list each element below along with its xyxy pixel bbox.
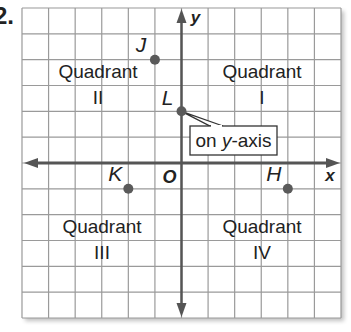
quadrant-word: Quadrant <box>58 61 138 82</box>
origin-label: O <box>162 167 176 187</box>
quadrant-numeral: II <box>93 87 104 108</box>
point-label-k: K <box>108 162 123 185</box>
quadrant-word: Quadrant <box>62 216 142 237</box>
point-j <box>150 55 160 65</box>
quadrant-word: Quadrant <box>222 61 302 82</box>
point-l <box>177 106 187 116</box>
point-label-j: J <box>135 33 147 56</box>
quadrant-numeral: I <box>259 87 264 108</box>
coordinate-plane: QuadrantIQuadrantIIQuadrantIIIQuadrantIV… <box>0 0 351 332</box>
point-label-l: L <box>162 86 174 109</box>
callout-text: on y-axis <box>195 130 271 151</box>
quadrant-word: Quadrant <box>222 216 302 237</box>
quadrant-numeral: IV <box>253 242 271 263</box>
point-k <box>123 184 133 194</box>
point-h <box>283 184 293 194</box>
x-axis-label: x <box>324 166 336 185</box>
quadrant-numeral: III <box>94 242 110 263</box>
y-axis-label: y <box>190 8 202 27</box>
point-label-h: H <box>266 162 282 185</box>
